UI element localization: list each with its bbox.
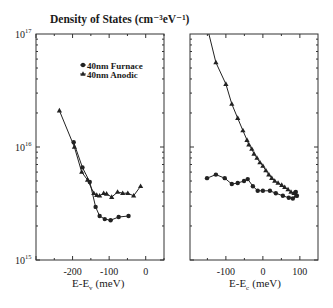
circle-marker-icon (281, 194, 285, 198)
right-series-layer (205, 34, 299, 201)
x-tick-label: 0 (143, 266, 148, 277)
triangle-marker-icon (251, 151, 256, 156)
series-40nm-anodic (209, 34, 299, 198)
circle-marker-icon (81, 63, 85, 67)
circle-marker-icon (274, 191, 278, 195)
series-40nm-furnace (71, 140, 130, 222)
series-40nm-anodic (57, 108, 143, 199)
legend-item-anodic: 40nm Anodic (80, 70, 138, 80)
x-tick-label: -100 (100, 266, 118, 277)
legend: 40nm Furnace 40nm Anodic (80, 61, 143, 80)
y-tick-label: 1015 (15, 253, 32, 266)
x-tick-label: 0 (260, 266, 265, 277)
right-plot-frame (190, 34, 318, 260)
circle-marker-icon (116, 215, 120, 219)
circle-marker-icon (205, 176, 209, 180)
circle-marker-icon (93, 205, 97, 209)
x-tick-label: 100 (292, 266, 307, 277)
density-of-states-figure: Density of States (cm⁻³eV⁻¹) 10151016101… (0, 0, 333, 308)
left-panel-valence: 101510161017 -200-1000 40nm Furnace 40nm… (15, 27, 164, 292)
triangle-marker-icon (57, 108, 62, 113)
circle-marker-icon (108, 218, 112, 222)
right-x-axis-label: E-Ec(meV) (229, 277, 281, 292)
triangle-marker-icon (223, 81, 228, 86)
figure-title: Density of States (cm⁻³eV⁻¹) (50, 13, 190, 26)
circle-marker-icon (103, 217, 107, 221)
triangle-marker-icon (72, 144, 77, 149)
triangle-marker-icon (240, 128, 245, 133)
triangle-marker-icon (229, 101, 234, 106)
x-tick-label: -100 (217, 266, 235, 277)
circle-marker-icon (230, 182, 234, 186)
triangle-marker-icon (244, 137, 249, 142)
triangle-marker-icon (138, 183, 143, 188)
circle-marker-icon (214, 172, 218, 176)
triangle-marker-icon (246, 142, 251, 147)
right-x-axis: -1000100 (207, 34, 307, 277)
triangle-marker-icon (115, 189, 120, 194)
right-panel-conduction: -1000100 E-Ec(meV) (190, 34, 318, 292)
circle-marker-icon (126, 214, 130, 218)
right-y-axis (190, 39, 318, 260)
circle-marker-icon (223, 176, 227, 180)
circle-marker-icon (287, 196, 291, 200)
circle-marker-icon (251, 184, 255, 188)
triangle-marker-icon (213, 60, 218, 65)
x-tick-label: -200 (63, 266, 81, 277)
triangle-marker-icon (235, 115, 240, 120)
y-tick-label: 1017 (15, 27, 32, 40)
circle-marker-icon (246, 177, 250, 181)
y-tick-label: 1016 (15, 140, 32, 153)
left-x-axis-label: E-Ev(meV) (72, 277, 125, 292)
circle-marker-icon (97, 214, 101, 218)
circle-marker-icon (236, 181, 240, 185)
circle-marker-icon (255, 189, 259, 193)
legend-label-anodic: 40nm Anodic (87, 70, 138, 80)
circle-marker-icon (268, 189, 272, 193)
circle-marker-icon (261, 189, 265, 193)
chart-canvas: Density of States (cm⁻³eV⁻¹) 10151016101… (0, 0, 333, 308)
left-series-layer (57, 108, 143, 223)
